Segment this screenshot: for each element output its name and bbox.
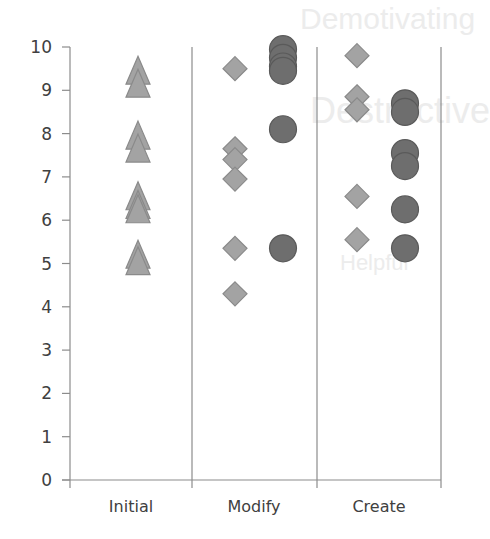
y-tick-label: 2 [41, 383, 52, 403]
y-tick-label: 1 [41, 427, 52, 447]
circle-marker [392, 196, 419, 223]
diamond-marker [345, 98, 369, 122]
y-tick-label: 8 [41, 124, 52, 144]
diamond-marker [223, 167, 247, 191]
diamond-marker [223, 57, 247, 81]
circle-marker [392, 153, 419, 180]
y-tick-label: 3 [41, 340, 52, 360]
y-tick-label: 4 [41, 297, 52, 317]
y-tick-label: 6 [41, 210, 52, 230]
data-markers [126, 36, 419, 306]
diamond-marker [345, 228, 369, 252]
y-tick-label: 5 [41, 254, 52, 274]
circle-marker [392, 235, 419, 262]
y-tick-label: 7 [41, 167, 52, 187]
x-category-label: Create [352, 497, 405, 516]
circle-marker [270, 57, 297, 84]
x-category-label: Initial [109, 497, 153, 516]
diamond-marker [223, 236, 247, 260]
diamond-marker [223, 282, 247, 306]
circle-marker [270, 235, 297, 262]
y-tick-label: 0 [41, 470, 52, 490]
y-tick-label: 10 [30, 37, 52, 57]
circle-marker [270, 116, 297, 143]
y-tick-label: 9 [41, 80, 52, 100]
diamond-marker [345, 44, 369, 68]
circle-marker [392, 98, 419, 125]
diamond-marker [345, 184, 369, 208]
x-category-label: Modify [227, 497, 280, 516]
axes [62, 47, 441, 488]
